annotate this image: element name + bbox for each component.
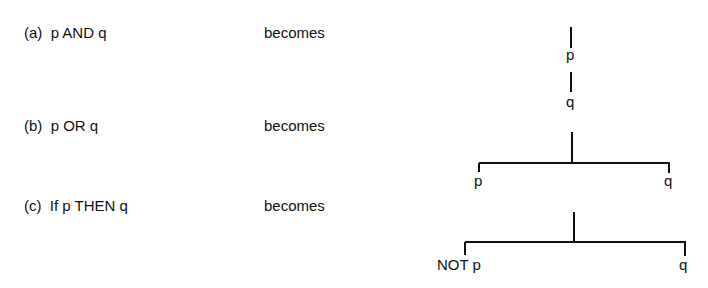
- tree-c-node-left: NOT p: [437, 256, 481, 274]
- tree-a-node-p: p: [566, 46, 574, 64]
- tree-b-node-right: q: [664, 172, 672, 190]
- tree-a-node-q: q: [566, 93, 574, 111]
- tree-b-node-left: p: [474, 172, 482, 190]
- tree-edges: [0, 0, 708, 288]
- tree-c-node-right: q: [679, 256, 687, 274]
